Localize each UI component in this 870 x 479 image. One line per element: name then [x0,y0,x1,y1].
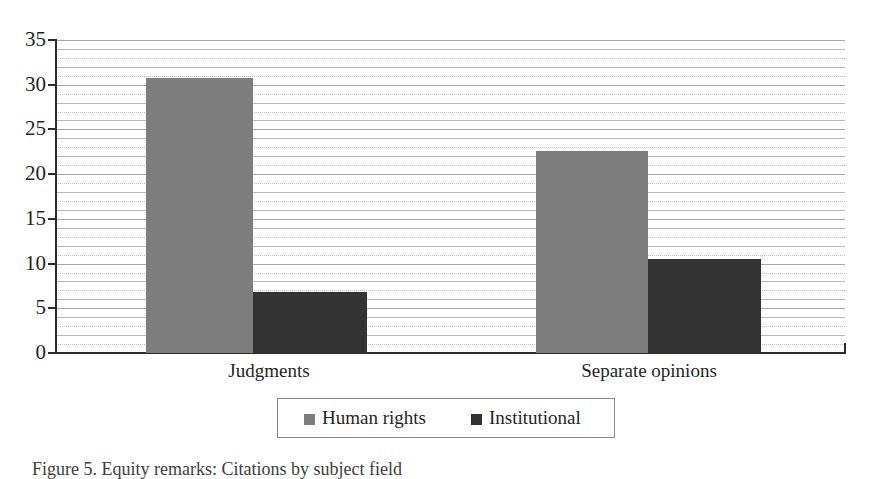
y-axis-tick-label: 5 [6,297,46,318]
bar-institutional-separate-opinions [648,259,761,353]
figure-caption: Figure 5. Equity remarks: Citations by s… [32,459,852,479]
y-axis-tick-label: 15 [6,208,46,229]
y-axis-tick-mark [48,352,57,354]
gridline [56,40,845,41]
y-axis-tick-mark [48,307,57,309]
legend-entry-human-rights: Human rights [304,406,426,430]
gridline [56,58,845,59]
y-axis-tick-mark [48,84,57,86]
bar-institutional-judgments [253,292,367,353]
legend-label-institutional: Institutional [489,406,581,430]
gridline [56,49,845,50]
legend-swatch-icon-institutional [471,414,482,425]
figure-container: 05101520253035 JudgmentsSeparate opinion… [0,0,870,479]
y-axis-tick-mark [48,128,57,130]
y-axis-tick-label: 25 [6,118,46,139]
x-axis-end-tick [844,343,846,354]
y-axis-tick-mark [48,39,57,41]
chart-legend: Human rights Institutional [277,398,615,438]
legend-label-human-rights: Human rights [322,406,426,430]
y-axis-tick-mark [48,263,57,265]
y-axis-tick-label: 20 [6,163,46,184]
gridline [56,67,845,68]
x-axis-label-separate-opinions: Separate opinions [499,360,799,382]
y-axis-tick-label: 0 [6,342,46,363]
legend-swatch-icon-human-rights [304,414,315,425]
y-axis-tick-mark [48,218,57,220]
bar-human-rights-separate-opinions [536,151,648,353]
y-axis-tick-label: 30 [6,74,46,95]
y-axis-tick-label: 35 [6,29,46,50]
y-axis-tick-label: 10 [6,253,46,274]
legend-entry-institutional: Institutional [471,406,581,430]
y-axis-tick-mark [48,173,57,175]
x-axis-label-judgments: Judgments [119,360,419,382]
bar-human-rights-judgments [146,78,253,353]
